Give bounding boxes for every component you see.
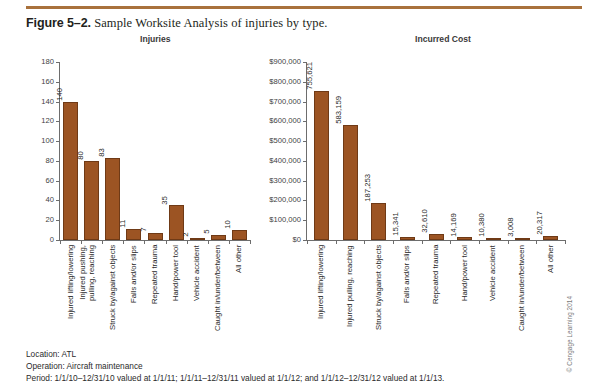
y-axis-label: $100,000 [269,216,301,224]
y-axis-tick [56,161,60,162]
bar[interactable]: 20,317 [543,236,558,240]
y-axis-tick [303,121,307,122]
x-axis-tick [364,240,365,244]
x-axis-category-label: Hand/power tool [460,245,469,301]
y-axis-label: $800,000 [269,78,301,86]
y-axis-tick [303,161,307,162]
chart-title-incurred-cost: Incurred Cost [415,34,471,44]
x-axis-tick [536,240,537,244]
x-axis-tick [60,240,61,244]
x-axis-tick [450,240,451,244]
y-axis-label: 100 [41,137,54,145]
x-axis-category-label: Injured pushing,pulling, reaching [79,245,96,301]
y-axis-tick [303,141,307,142]
footer-location: Location: ATL [26,349,444,361]
x-axis-tick [422,240,423,244]
y-axis-label: 0 [50,236,54,244]
x-axis-tick [565,240,566,244]
x-axis-category-label: All other [235,245,244,273]
bar-value-label: 583,159 [335,96,343,124]
x-axis-tick [393,240,394,244]
bar[interactable]: 15,341 [400,237,415,240]
y-axis-label: 160 [41,78,54,86]
chart-title-injuries: Injuries [140,34,171,44]
x-axis-tick [229,240,230,244]
bar[interactable]: 755,621 [314,91,329,240]
bar-value-label: 11 [119,220,127,228]
bar[interactable]: 3,008 [515,238,530,240]
y-axis-label: $0 [293,236,301,244]
y-axis-tick [303,102,307,103]
y-axis-label: 80 [46,157,54,165]
y-axis-tick [56,121,60,122]
figure-number: Figure 5–2. [26,16,91,30]
y-axis-label: $600,000 [269,118,301,126]
x-axis-tick [102,240,103,244]
bar[interactable]: 10 [232,230,247,240]
x-axis-tick [144,240,145,244]
y-axis-label: 140 [41,98,54,106]
x-axis-category-label: Struck by/against objects [108,245,117,330]
bar-value-label: 14,169 [450,213,458,237]
x-axis-category-label: Repeated trauma [151,245,160,304]
x-axis-category-label: Caught in/under/between [518,245,527,331]
bar-value-label: 7 [140,228,148,232]
x-axis-category-label: Falls and/or slips [403,245,412,303]
bar-value-label: 15,341 [393,212,401,236]
bar-value-label: 83 [98,148,106,157]
footer-period: Period: 1/1/10–12/31/10 valued at 1/1/11… [26,373,444,385]
x-axis-category-label: Injured lifting/lowering [317,245,326,319]
y-axis-tick [56,82,60,83]
y-axis-label: 180 [41,58,54,66]
bar-value-label: 32,610 [421,209,429,233]
bar[interactable]: 80 [84,161,99,240]
bar[interactable]: 32,610 [429,234,444,240]
bar[interactable]: 187,253 [371,203,386,240]
x-axis-tick [187,240,188,244]
y-axis-tick [56,102,60,103]
bar[interactable]: 2 [190,238,205,240]
y-axis-tick [56,220,60,221]
bar[interactable]: 7 [148,233,163,240]
x-axis-category-label: Vehicle accident [489,245,498,301]
x-axis-tick [336,240,337,244]
figure-caption-text: Sample Worksite Analysis of injuries by … [94,16,327,30]
y-axis-tick [56,181,60,182]
plot-area-injuries: 020406080100120140160180140Injured lifti… [59,62,250,241]
x-axis-category-label: Repeated trauma [432,245,441,304]
x-axis-tick [307,240,308,244]
y-axis-tick [303,181,307,182]
x-axis-category-label: Falls and/or slips [130,245,139,303]
y-axis-label: $500,000 [269,137,301,145]
x-axis-tick [208,240,209,244]
bar[interactable]: 140 [63,102,78,240]
bar[interactable]: 583,159 [343,125,358,240]
bar-value-label: 2 [183,233,191,237]
x-axis-tick [479,240,480,244]
y-axis-tick [56,141,60,142]
x-axis-category-label: Injured pulling, reaching [346,245,355,327]
bar[interactable]: 10,380 [486,238,501,240]
bar-value-label: 140 [56,88,64,101]
bar-value-label: 10,380 [479,213,487,237]
x-axis-category-label: Injured lifting/lowering [66,245,75,319]
x-axis-tick [250,240,251,244]
y-axis-label: $900,000 [269,58,301,66]
copyright-notice: © Cengage Learning 2014 [566,296,573,372]
y-axis-label: $200,000 [269,197,301,205]
x-axis-category-label: All other [546,245,555,273]
bar-value-label: 5 [204,230,212,234]
x-axis-tick [123,240,124,244]
bar[interactable]: 5 [211,235,226,240]
x-axis-category-label: Hand/power tool [172,245,181,301]
x-axis-tick [166,240,167,244]
x-axis-tick [81,240,82,244]
figure-top-rule [26,6,582,9]
y-axis-tick [303,200,307,201]
x-axis-category-label: Struck by/against objects [374,245,383,330]
figure-footer: Location: ATL Operation: Aircraft mainte… [26,349,444,384]
bar[interactable]: 14,169 [457,237,472,240]
y-axis-tick [56,62,60,63]
y-axis-label: $300,000 [269,177,301,185]
y-axis-label: 120 [41,118,54,126]
